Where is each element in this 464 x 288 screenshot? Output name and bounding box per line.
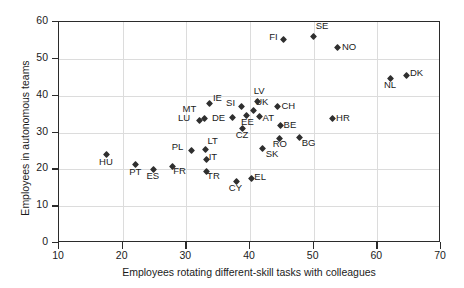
data-point-label: RO <box>267 139 287 149</box>
y-tick-mark <box>52 58 58 59</box>
scatter-chart: HUPTESFRPLLUMTIELTITTRCYELDECZSIEEUKLVAT… <box>0 0 464 288</box>
data-point-marker <box>402 71 409 78</box>
data-point-label: HU <box>93 157 113 167</box>
x-tick-mark <box>440 242 441 249</box>
data-point-marker <box>274 103 281 110</box>
data-point-label: BG <box>302 138 316 148</box>
y-tick-mark <box>52 21 58 22</box>
x-tick-label: 20 <box>102 250 142 261</box>
x-tick-label: 50 <box>293 250 333 261</box>
y-axis-title-wrap: Employees in autonomous teams <box>8 16 22 246</box>
x-tick-label: 30 <box>165 250 205 261</box>
gridline-vertical <box>314 22 315 241</box>
data-point-marker <box>329 115 336 122</box>
gridline-horizontal <box>59 169 439 170</box>
x-tick-mark <box>185 242 186 249</box>
data-point-marker <box>280 36 287 43</box>
data-point-label: CZ <box>228 130 248 140</box>
gridline-vertical <box>186 22 187 241</box>
data-point-label: LV <box>245 86 265 96</box>
data-point-marker <box>310 32 317 39</box>
data-point-marker <box>334 44 341 51</box>
data-point-label: TR <box>207 171 220 181</box>
plot-area: HUPTESFRPLLUMTIELTITTRCYELDECZSIEEUKLVAT… <box>58 21 440 242</box>
data-point-marker <box>188 147 195 154</box>
data-point-label: IT <box>209 152 217 162</box>
x-tick-mark <box>376 242 377 249</box>
x-tick-mark <box>313 242 314 249</box>
y-tick-mark <box>52 132 58 133</box>
y-tick-mark <box>52 168 58 169</box>
gridline-horizontal <box>59 206 439 207</box>
x-tick-mark <box>122 242 123 249</box>
data-point-label: CY <box>222 183 242 193</box>
x-tick-label: 60 <box>356 250 396 261</box>
data-point-label: BE <box>284 120 297 130</box>
data-point-label: SE <box>316 21 329 31</box>
data-point-label: FI <box>258 32 278 42</box>
y-axis-title: Employees in autonomous teams <box>19 23 31 253</box>
gridline-horizontal <box>59 59 439 60</box>
data-point-label: HR <box>336 113 350 123</box>
data-point-label: ES <box>139 171 159 181</box>
data-point-label: EL <box>254 172 266 182</box>
data-point-label: CH <box>281 101 295 111</box>
data-point-label: AT <box>263 113 274 123</box>
y-tick-mark <box>52 95 58 96</box>
data-point-label: DK <box>410 68 423 78</box>
y-tick-mark <box>52 205 58 206</box>
x-tick-label: 40 <box>229 250 269 261</box>
data-point-label: FR <box>173 166 186 176</box>
data-point-label: SK <box>266 149 279 159</box>
x-axis-title: Employees rotating different-skill tasks… <box>58 266 440 278</box>
data-point-label: LT <box>207 136 217 146</box>
data-point-label: NO <box>342 42 356 52</box>
data-point-label: NL <box>376 80 396 90</box>
gridline-horizontal <box>59 96 439 97</box>
x-tick-label: 70 <box>420 250 460 261</box>
data-point-label: MT <box>176 104 196 114</box>
data-point-label: SI <box>215 98 235 108</box>
data-point-label: DE <box>205 113 225 123</box>
data-point-marker <box>238 103 245 110</box>
gridline-vertical <box>250 22 251 241</box>
gridline-vertical <box>377 22 378 241</box>
data-point-label: PL <box>163 142 183 152</box>
x-tick-label: 10 <box>38 250 78 261</box>
data-point-label: EE <box>234 117 254 127</box>
x-tick-mark <box>249 242 250 249</box>
gridline-vertical <box>123 22 124 241</box>
x-tick-mark <box>58 242 59 249</box>
gridline-horizontal <box>59 133 439 134</box>
data-point-label: LU <box>170 113 190 123</box>
